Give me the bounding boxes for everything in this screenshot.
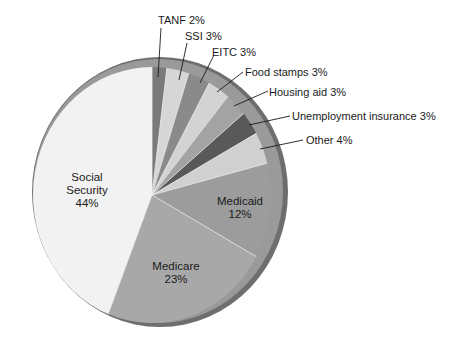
label-eitc: EITC 3% <box>212 46 256 58</box>
label-other: Other 4% <box>306 134 353 146</box>
label-social-security-pct: 44% <box>75 197 98 209</box>
label-food-stamps: Food stamps 3% <box>245 66 328 78</box>
label-medicaid-pct: 12% <box>228 208 251 220</box>
label-medicaid-name: Medicaid <box>217 195 263 207</box>
label-medicare-name: Medicare <box>152 260 199 272</box>
label-social-security-name-2: Security <box>66 184 108 196</box>
label-unemployment-insurance: Unemployment insurance 3% <box>292 110 436 122</box>
label-tanf: TANF 2% <box>158 14 205 26</box>
pie-chart: TANF 2% SSI 3% EITC 3% Food stamps 3% Ho… <box>0 0 454 344</box>
label-housing-aid: Housing aid 3% <box>269 86 346 98</box>
label-medicare-pct: 23% <box>164 273 187 285</box>
label-ssi: SSI 3% <box>185 30 222 42</box>
label-social-security-name-1: Social <box>71 171 102 183</box>
